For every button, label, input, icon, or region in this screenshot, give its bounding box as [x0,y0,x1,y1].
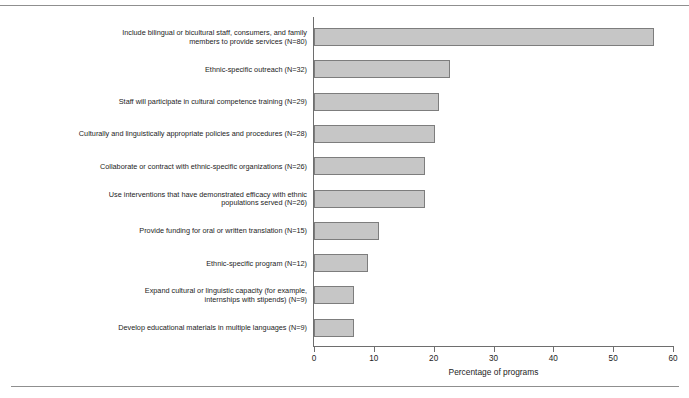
bar-row: Staff will participate in cultural compe… [0,93,689,125]
bar [314,60,450,78]
x-axis-tick [434,347,435,352]
bar-category-label: Include bilingual or bicultural staff, c… [17,29,307,46]
bar-chart-plot: Include bilingual or bicultural staff, c… [0,0,689,398]
bar-category-label: Collaborate or contract with ethnic-spec… [17,163,307,172]
bar [314,157,425,175]
bar [314,286,354,304]
x-axis-tick [553,347,554,352]
bar-category-label: Provide funding for oral or written tran… [17,227,307,236]
bar-row: Include bilingual or bicultural staff, c… [0,28,689,60]
bar [314,190,425,208]
x-axis-tick-label: 0 [299,354,329,363]
x-axis-tick [673,347,674,352]
figure-container: Include bilingual or bicultural staff, c… [0,0,689,398]
x-axis-tick [494,347,495,352]
bar [314,93,439,111]
bar-category-label: Staff will participate in cultural compe… [17,98,307,107]
x-axis-tick-label: 50 [598,354,628,363]
x-axis-tick [314,347,315,352]
bar-category-label: Culturally and linguistically appropriat… [17,130,307,139]
bar [314,319,354,337]
x-axis-tick-label: 30 [479,354,509,363]
x-axis-tick [613,347,614,352]
bar-row: Use interventions that have demonstrated… [0,190,689,222]
x-axis-label: Percentage of programs [313,367,674,377]
bar-row: Expand cultural or linguistic capacity (… [0,286,689,318]
bar-category-label: Ethnic-specific outreach (N=32) [17,66,307,75]
bottom-horizontal-rule [11,386,679,387]
bar [314,254,368,272]
bar-row: Develop educational materials in multipl… [0,319,689,351]
x-axis-tick-label: 20 [419,354,449,363]
bar [314,125,435,143]
x-axis-tick-label: 60 [658,354,688,363]
bar-row: Ethnic-specific outreach (N=32) [0,60,689,92]
bar-row: Ethnic-specific program (N=12) [0,254,689,286]
x-axis-tick [374,347,375,352]
bar-category-label: Ethnic-specific program (N=12) [17,260,307,269]
bar-row: Culturally and linguistically appropriat… [0,125,689,157]
bar-category-label: Use interventions that have demonstrated… [17,191,307,208]
x-axis-tick-label: 10 [359,354,389,363]
bar-category-label: Develop educational materials in multipl… [17,324,307,333]
bar-row: Collaborate or contract with ethnic-spec… [0,157,689,189]
x-axis-tick-label: 40 [538,354,568,363]
bar [314,222,379,240]
bar [314,28,654,46]
bar-row: Provide funding for oral or written tran… [0,222,689,254]
bar-category-label: Expand cultural or linguistic capacity (… [17,287,307,304]
